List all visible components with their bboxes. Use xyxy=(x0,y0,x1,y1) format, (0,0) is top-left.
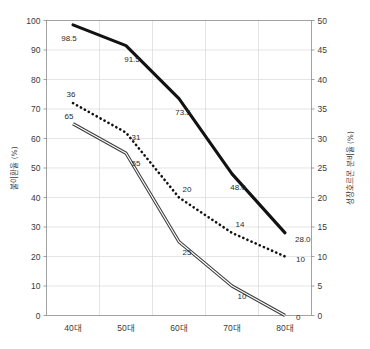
data-point-label: 14 xyxy=(236,220,245,229)
left-tick-label: 40 xyxy=(31,193,41,203)
left-tick-label: 100 xyxy=(26,16,40,26)
left-tick-label: 50 xyxy=(31,163,41,173)
chart-container: 0102030405060708090100 05101520253035404… xyxy=(0,0,370,349)
data-point-label: 20 xyxy=(183,185,192,194)
data-point-label: 73.5 xyxy=(175,108,191,117)
right-tick-label: 5 xyxy=(318,281,323,291)
data-point-label: 65 xyxy=(65,112,74,121)
left-tick-label: 60 xyxy=(31,134,41,144)
left-tick-label: 90 xyxy=(31,45,41,55)
data-point-label: 31 xyxy=(132,133,141,142)
x-tick-label: 60대 xyxy=(170,323,187,333)
right-tick-label: 20 xyxy=(318,193,328,203)
right-tick-label: 45 xyxy=(318,45,328,55)
left-tick-label: 10 xyxy=(31,281,41,291)
x-tick-label: 80대 xyxy=(276,323,293,333)
right-tick-label: 10 xyxy=(318,252,328,262)
right-tick-label: 25 xyxy=(318,163,328,173)
data-point-label: 28.0 xyxy=(295,235,311,244)
data-point-label: 55 xyxy=(132,159,141,168)
right-tick-label: 0 xyxy=(318,311,323,321)
right-axis-title: 성장호르몬 분비율 (%) xyxy=(345,131,355,205)
left-tick-label: 30 xyxy=(31,222,41,232)
right-tick-label: 15 xyxy=(318,222,328,232)
data-point-label: 25 xyxy=(183,248,192,257)
left-tick-label: 0 xyxy=(36,311,41,321)
chart-background xyxy=(0,0,370,349)
x-tick-label: 40대 xyxy=(64,323,81,333)
data-point-label: 36 xyxy=(67,90,76,99)
dual-axis-line-chart: 0102030405060708090100 05101520253035404… xyxy=(0,0,370,349)
right-tick-label: 30 xyxy=(318,134,328,144)
data-point-label: 10 xyxy=(238,292,247,301)
x-tick-label: 50대 xyxy=(117,323,134,333)
left-tick-label: 80 xyxy=(31,75,41,85)
left-axis-title: 불이환율 (%) xyxy=(9,146,19,189)
data-point-label: 10 xyxy=(296,255,305,264)
data-point-label: 0 xyxy=(296,313,301,322)
right-tick-label: 40 xyxy=(318,75,328,85)
data-point-label: 48.0 xyxy=(230,183,246,192)
right-tick-label: 35 xyxy=(318,104,328,114)
data-point-label: 98.5 xyxy=(61,34,77,43)
right-tick-label: 50 xyxy=(318,16,328,26)
data-point-label: 91.5 xyxy=(124,55,140,64)
x-tick-label: 70대 xyxy=(223,323,240,333)
left-tick-label: 20 xyxy=(31,252,41,262)
left-tick-label: 70 xyxy=(31,104,41,114)
